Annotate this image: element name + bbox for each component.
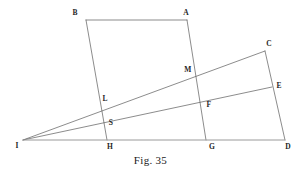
vertex-label-D: D xyxy=(285,143,291,151)
segment-A-G xyxy=(187,20,206,140)
vertex-label-F: F xyxy=(207,101,212,109)
segment-B-H xyxy=(86,20,107,140)
segment-C-D xyxy=(265,51,285,140)
segment-layer xyxy=(23,20,285,140)
vertex-label-M: M xyxy=(184,66,191,74)
vertex-label-H: H xyxy=(107,143,113,151)
geometry-canvas xyxy=(0,0,301,171)
vertex-label-I: I xyxy=(15,142,18,150)
geometry-figure: B A C M E L F S I H G D Fig. 35 xyxy=(0,0,301,171)
vertex-label-E: E xyxy=(276,82,281,90)
segment-I-E xyxy=(23,87,272,140)
vertex-label-G: G xyxy=(209,143,215,151)
segment-I-C xyxy=(23,51,265,140)
vertex-label-C: C xyxy=(266,40,272,48)
vertex-label-S: S xyxy=(109,119,113,127)
vertex-label-A: A xyxy=(183,9,189,17)
vertex-label-L: L xyxy=(102,95,107,103)
vertex-label-B: B xyxy=(72,9,77,17)
figure-caption: Fig. 35 xyxy=(0,154,301,166)
